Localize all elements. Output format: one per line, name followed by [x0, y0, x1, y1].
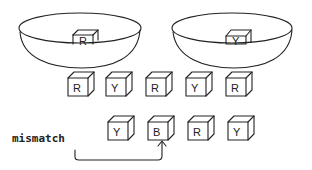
- svg-text:Y: Y: [191, 82, 199, 94]
- top-block-4: R: [226, 72, 252, 96]
- svg-text:B: B: [153, 126, 160, 138]
- svg-text:R: R: [151, 82, 159, 94]
- svg-text:Y: Y: [113, 126, 121, 138]
- right-bowl-block: Y: [226, 30, 251, 47]
- mismatch-annotation: mismatch: [12, 132, 166, 160]
- right-bowl-block-letter: Y: [232, 35, 240, 47]
- diagram-canvas: R Y R Y R Y: [0, 0, 312, 170]
- bottom-block-2: R: [188, 116, 214, 140]
- svg-text:Y: Y: [111, 82, 119, 94]
- top-row: R Y R Y R: [68, 72, 252, 96]
- left-bowl: R: [19, 13, 141, 68]
- mismatch-arrow-icon: [75, 142, 162, 160]
- svg-text:R: R: [231, 82, 239, 94]
- bottom-block-0: Y: [108, 116, 134, 140]
- bottom-block-3: Y: [228, 116, 254, 140]
- bottom-block-1: B: [148, 116, 174, 140]
- top-block-2: R: [146, 72, 172, 96]
- bottom-row: Y B R Y: [108, 116, 254, 140]
- mismatch-label: mismatch: [12, 132, 65, 145]
- right-bowl: Y: [172, 13, 292, 68]
- left-bowl-block: R: [73, 30, 98, 47]
- top-block-3: Y: [186, 72, 212, 96]
- left-bowl-block-letter: R: [79, 35, 87, 47]
- top-block-0: R: [68, 72, 94, 96]
- svg-text:R: R: [193, 126, 201, 138]
- top-block-1: Y: [106, 72, 132, 96]
- svg-text:R: R: [73, 82, 81, 94]
- svg-text:Y: Y: [233, 126, 241, 138]
